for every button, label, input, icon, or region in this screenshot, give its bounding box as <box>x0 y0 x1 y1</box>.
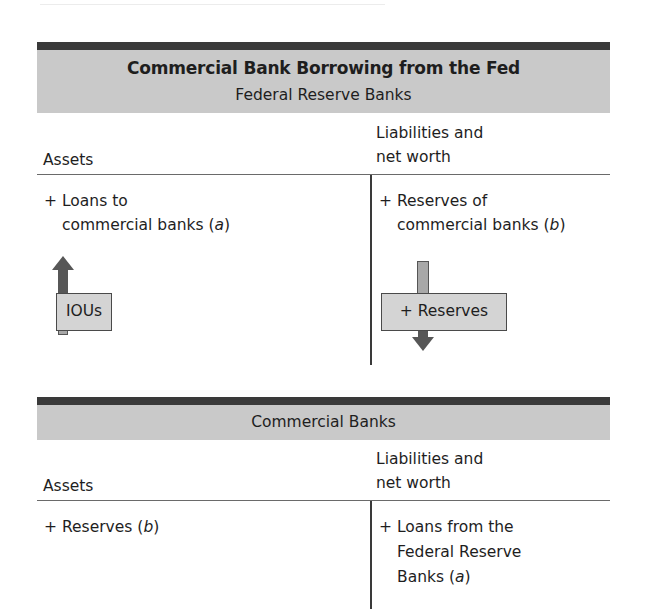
account-body: +Reserves (b) +Loans from the Federal Re… <box>37 501 610 609</box>
liabilities-entry-reserves: +Reserves of commercial banks (b) <box>379 189 565 237</box>
header-bar <box>37 42 610 50</box>
liabilities-header: Liabilities and net worth <box>376 447 483 495</box>
header-band: Commercial Bank Borrowing from the Fed F… <box>37 50 610 113</box>
column-headers: Assets Liabilities and net worth <box>37 113 610 175</box>
header-bar <box>37 397 610 405</box>
cropped-text-line <box>40 0 385 5</box>
header-band: Commercial Banks <box>37 405 610 440</box>
assets-header: Assets <box>43 151 93 169</box>
diagram-title: Commercial Bank Borrowing from the Fed <box>37 54 610 82</box>
assets-header: Assets <box>43 477 93 495</box>
column-headers: Assets Liabilities and net worth <box>37 440 610 501</box>
account-name: Federal Reserve Banks <box>37 82 610 108</box>
liabilities-entry-loans: +Loans from the Federal Reserve Banks (a… <box>379 515 521 590</box>
fed-reserve-t-account: Commercial Bank Borrowing from the Fed F… <box>37 42 610 365</box>
assets-entry-reserves: +Reserves (b) <box>44 515 159 539</box>
account-body: +Loans to commercial banks (a) +Reserves… <box>37 175 610 365</box>
account-name: Commercial Banks <box>37 405 610 440</box>
commercial-banks-t-account: Commercial Banks Assets Liabilities and … <box>37 397 610 609</box>
reserves-flow-label: + Reserves <box>381 293 507 331</box>
liabilities-header: Liabilities and net worth <box>376 121 483 169</box>
vertical-divider <box>370 175 372 365</box>
assets-entry-loans: +Loans to commercial banks (a) <box>44 189 230 237</box>
vertical-divider <box>370 501 372 609</box>
iou-flow-label: IOUs <box>56 293 112 331</box>
